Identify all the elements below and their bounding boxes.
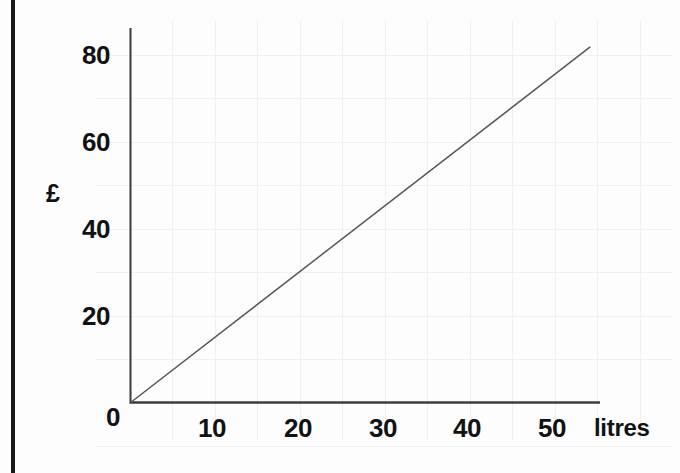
- grid-vertical-lines: [173, 20, 641, 440]
- grid-horizontal-lines: [95, 55, 672, 446]
- x-tick-label-30: 30: [369, 415, 397, 441]
- x-tick-label-10: 10: [198, 415, 226, 441]
- x-tick-label-50: 50: [538, 415, 566, 441]
- y-tick-label-40: 40: [22, 216, 110, 242]
- x-axis-title: litres: [594, 416, 650, 440]
- line-chart-figure: 80 60 40 20 £ 0 10 20 30 40 50 litres: [0, 0, 680, 473]
- origin-label-zero: 0: [106, 404, 120, 430]
- y-tick-label-60: 60: [22, 129, 110, 155]
- screenshot-canvas: 80 60 40 20 £ 0 10 20 30 40 50 litres: [0, 0, 680, 473]
- y-axis-title: £: [46, 181, 60, 206]
- y-tick-label-20: 20: [22, 303, 110, 329]
- x-tick-label-20: 20: [284, 415, 312, 441]
- data-line-cost-of-fuel: [130, 47, 590, 403]
- y-tick-label-80: 80: [22, 42, 110, 68]
- x-tick-label-40: 40: [453, 415, 481, 441]
